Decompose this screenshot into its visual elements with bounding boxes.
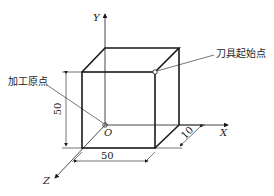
tool-start-label: 刀具起始点 [216, 49, 266, 59]
z-axis [55, 125, 105, 178]
tool-start-leader [157, 55, 214, 71]
front-face [82, 72, 155, 148]
origin-point-label: O [104, 128, 112, 138]
width-dimension: 50 [101, 151, 114, 161]
z-axis-label: Z [43, 176, 50, 186]
top-face [82, 48, 179, 72]
height-dimension: 50 [53, 103, 63, 116]
x-axis-label: X [220, 128, 227, 138]
tool-start-marker [153, 70, 157, 74]
cube-diagram [0, 0, 274, 196]
y-axis-label: Y [93, 13, 100, 23]
origin-label: 加工原点 [8, 77, 48, 87]
